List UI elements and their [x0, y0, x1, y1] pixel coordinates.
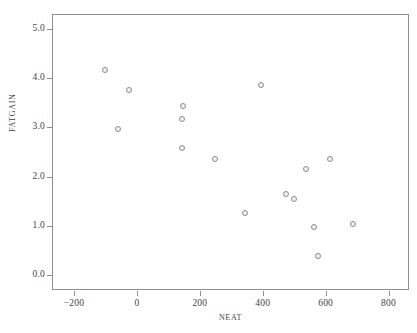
data-point — [179, 116, 185, 122]
x-tick-label: 600 — [304, 298, 348, 308]
x-axis-label: NEAT — [52, 313, 409, 322]
x-tick-mark — [326, 291, 327, 296]
data-point — [303, 166, 309, 172]
y-tick-label: 2.0 — [33, 172, 45, 182]
data-point — [179, 145, 185, 151]
data-point — [283, 191, 289, 197]
data-point — [102, 67, 108, 73]
y-tick-label: 1.0 — [33, 221, 45, 231]
y-axis-label: FATGAIN — [8, 120, 17, 132]
x-tick-label: 200 — [178, 298, 222, 308]
data-point — [291, 196, 297, 202]
x-tick-mark — [200, 291, 201, 296]
y-tick-label: 0.0 — [33, 270, 45, 280]
scatter-plot-figure: 0.01.02.03.04.05.0 −2000200400600800 NEA… — [0, 0, 417, 333]
x-tick-mark — [263, 291, 264, 296]
data-point — [258, 82, 264, 88]
y-tick-mark — [47, 177, 52, 178]
y-tick-mark — [47, 78, 52, 79]
y-tick-label: 3.0 — [33, 122, 45, 132]
y-tick-label: 5.0 — [33, 24, 45, 34]
y-tick-mark — [47, 127, 52, 128]
x-tick-mark — [389, 291, 390, 296]
data-point — [180, 103, 186, 109]
y-tick-label: 4.0 — [33, 73, 45, 83]
data-point — [350, 221, 356, 227]
data-point — [115, 126, 121, 132]
x-tick-mark — [74, 291, 75, 296]
y-tick-mark — [47, 29, 52, 30]
clipped-title-strip — [0, 0, 417, 7]
x-tick-label: 400 — [241, 298, 285, 308]
plot-area-frame — [52, 14, 409, 290]
y-tick-mark — [47, 275, 52, 276]
x-tick-label: −200 — [52, 298, 96, 308]
x-tick-mark — [137, 291, 138, 296]
x-tick-label: 800 — [367, 298, 411, 308]
data-point — [315, 253, 321, 259]
y-tick-mark — [47, 226, 52, 227]
x-tick-label: 0 — [115, 298, 159, 308]
